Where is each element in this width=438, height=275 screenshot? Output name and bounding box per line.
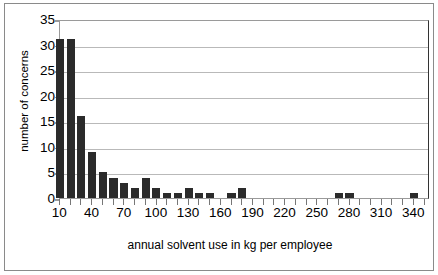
bar xyxy=(88,152,96,198)
x-tick-mark xyxy=(80,199,81,205)
y-axis-ticks: 05101520253035 xyxy=(0,20,55,199)
x-tick-mark xyxy=(102,199,103,205)
y-tick-label: 0 xyxy=(9,192,55,206)
bar xyxy=(67,39,75,198)
bar xyxy=(345,193,353,198)
x-tick-label: 340 xyxy=(390,206,436,220)
bar xyxy=(206,193,214,198)
bar xyxy=(174,193,182,198)
plot-area xyxy=(59,20,429,199)
bar xyxy=(56,39,64,198)
y-tick-label: 10 xyxy=(9,141,55,155)
bar-series xyxy=(60,21,428,198)
bar xyxy=(163,193,171,198)
bar xyxy=(335,193,343,198)
bar xyxy=(238,188,246,198)
bar xyxy=(227,193,235,198)
x-axis-title: annual solvent use in kg per employee xyxy=(30,238,430,252)
bar xyxy=(185,188,193,198)
x-tick-mark xyxy=(134,199,135,205)
y-tick-label: 15 xyxy=(9,115,55,129)
x-axis-tick-labels: 104070100130160190220250280310340 xyxy=(59,206,429,226)
bar xyxy=(152,188,160,198)
bar xyxy=(77,116,85,198)
x-tick-mark xyxy=(113,199,114,205)
y-tick-label: 35 xyxy=(9,13,55,27)
y-tick-label: 5 xyxy=(9,166,55,180)
x-tick-mark xyxy=(70,199,71,205)
y-tick-label: 20 xyxy=(9,90,55,104)
y-tick-label: 30 xyxy=(9,39,55,53)
chart-figure: number of concerns 05101520253035 104070… xyxy=(0,0,438,275)
bar xyxy=(99,172,107,198)
bar xyxy=(109,178,117,198)
y-tick-label: 25 xyxy=(9,64,55,78)
bar xyxy=(195,193,203,198)
bar xyxy=(120,183,128,198)
bar xyxy=(131,188,139,198)
bar xyxy=(410,193,418,198)
bar xyxy=(142,178,150,198)
